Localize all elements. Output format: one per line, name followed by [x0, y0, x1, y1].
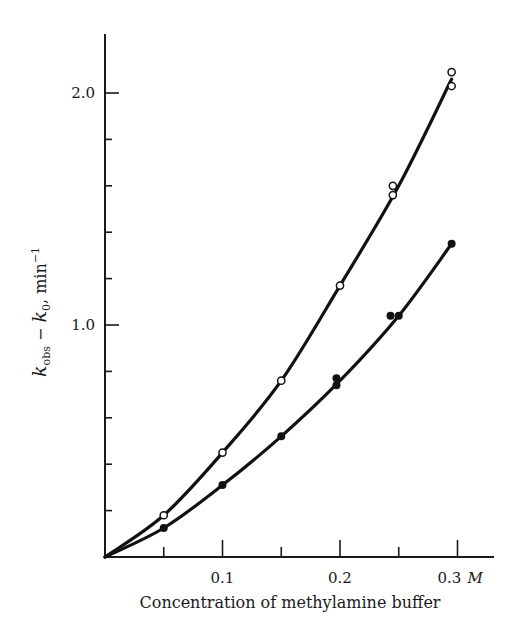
y-title-minus: − — [31, 323, 50, 347]
open-circle-marker — [448, 69, 455, 76]
open-circle-marker — [278, 377, 285, 384]
open-circle-marker — [389, 191, 396, 198]
open-circle-marker — [389, 182, 396, 189]
chart: 0.10.20.3M1.02.0Concentration of methyla… — [0, 0, 520, 640]
y-title-sub-obs: obs — [40, 346, 53, 366]
y-title-unit: , min — [31, 263, 50, 304]
x-axis-title: Concentration of methylamine buffer — [140, 593, 441, 612]
x-tick-label: 0.1 — [211, 569, 235, 587]
filled-circle-marker — [332, 374, 340, 382]
open-circle-marker — [448, 82, 455, 89]
filled-circle-marker — [448, 240, 456, 248]
filled-circle-marker — [219, 481, 227, 489]
filled-series-curve — [105, 244, 452, 557]
open-circle-marker — [160, 512, 167, 519]
filled-circle-marker — [277, 432, 285, 440]
open-circle-marker — [336, 282, 343, 289]
y-tick-label: 2.0 — [71, 84, 95, 102]
y-tick-label: 1.0 — [71, 316, 95, 334]
x-tick-label: 0.2 — [328, 569, 352, 587]
axis-labels: 0.10.20.3M1.02.0Concentration of methyla… — [28, 84, 484, 612]
y-title-k: k — [28, 365, 50, 377]
y-title-k0: k — [28, 311, 50, 323]
x-unit-label: M — [467, 569, 484, 587]
y-title-sub-0: 0 — [40, 304, 53, 311]
y-title-sup: −1 — [29, 247, 42, 263]
open-circle-marker — [219, 449, 226, 456]
filled-circle-marker — [160, 524, 168, 532]
filled-circle-marker — [395, 312, 403, 320]
filled-circle-marker — [387, 312, 395, 320]
x-tick-label: 0.3 — [438, 569, 462, 587]
filled-circle-marker — [332, 381, 340, 389]
y-axis-title: kobs − k0, min−1 — [28, 247, 53, 377]
